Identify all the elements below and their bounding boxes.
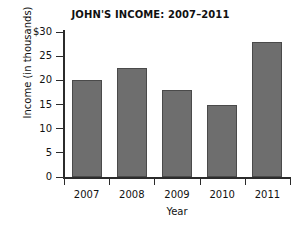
y-axis-tick-label: 10 [39, 124, 52, 134]
x-axis-tick-label: 2010 [199, 189, 245, 200]
chart-title: JOHN'S INCOME: 2007–2011 [0, 9, 301, 20]
x-axis-tick [245, 178, 246, 185]
y-axis-tick [56, 128, 64, 129]
y-axis-tick-label: 0 [46, 172, 52, 182]
x-axis-title: Year [64, 206, 290, 217]
y-axis-tick-label: 5 [46, 148, 52, 158]
x-axis-tick [290, 178, 291, 185]
bar [72, 80, 102, 177]
x-axis-tick-label: 2011 [244, 189, 290, 200]
x-axis-tick-label: 2007 [64, 189, 110, 200]
bar [117, 68, 147, 177]
bar [162, 90, 192, 177]
y-axis-title: Income (in thousands) [22, 0, 33, 133]
y-axis-tick [56, 80, 64, 81]
y-axis-tick [56, 152, 64, 153]
x-axis-tick [154, 178, 155, 185]
y-axis-tick-label: 15 [39, 100, 52, 110]
y-axis-tick [56, 104, 64, 105]
x-axis-tick [200, 178, 201, 185]
bar [252, 42, 282, 177]
y-axis-tick-label: 25 [39, 51, 52, 61]
x-axis-tick [109, 178, 110, 185]
x-axis-tick-label: 2008 [109, 189, 155, 200]
y-axis-tick [56, 177, 64, 178]
bar [207, 105, 237, 178]
x-axis-tick-label: 2009 [154, 189, 200, 200]
x-axis-tick [64, 178, 65, 185]
x-axis-line [63, 177, 291, 179]
plot-area [64, 32, 290, 177]
y-axis-tick [56, 56, 64, 57]
y-axis-tick [56, 32, 64, 33]
y-axis-tick-label: $30 [33, 27, 52, 37]
y-axis-tick-label: 20 [39, 75, 52, 85]
bar-chart-figure: JOHN'S INCOME: 2007–2011 Income (in thou… [0, 0, 301, 239]
